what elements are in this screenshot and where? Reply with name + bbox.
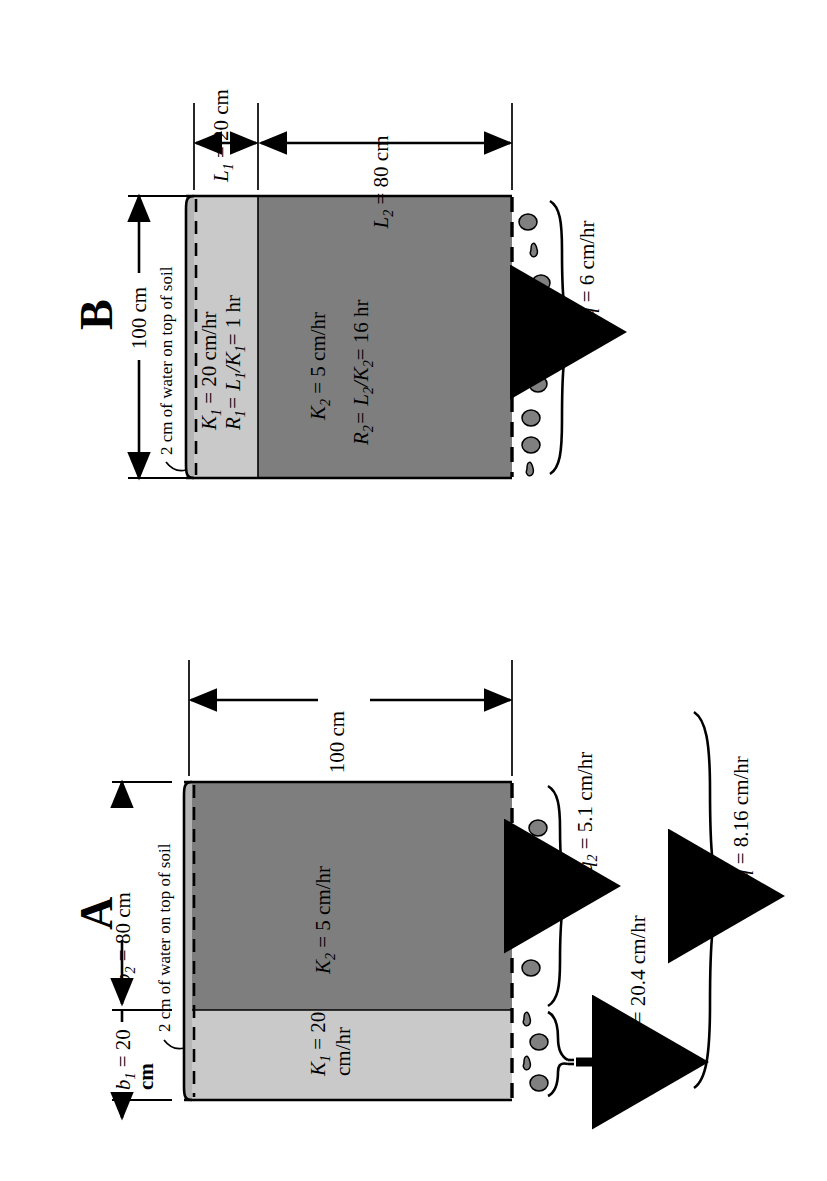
- figure-root: B 100 cm 2 cm of water on top of soil: [0, 0, 827, 1181]
- panel-b-flux-label: q = 6 cm/hr: [575, 220, 599, 318]
- panel-a-layer1-k: K1 = 20: [306, 1012, 333, 1077]
- water-droplet-icon: [522, 410, 540, 426]
- water-droplet-icon: [529, 376, 547, 392]
- panel-b-height-label: 100 cm: [127, 287, 151, 349]
- panel-b-label: B: [71, 299, 122, 330]
- panel-b-layer2-r: R2= L2/K2= 16 hr: [349, 299, 376, 446]
- water-droplet-icon: [519, 214, 537, 230]
- water-droplet-icon: [527, 310, 545, 326]
- panel-a-width-label: 100 cm: [325, 711, 349, 773]
- panel-b-layer2-fill: [258, 196, 512, 478]
- water-droplet-icon: [526, 462, 533, 475]
- panel-a-flux2-label: q2 = 5.1 cm/hr: [573, 752, 600, 872]
- water-droplet-icon: [523, 1056, 530, 1069]
- panel-b-layer1-r: R1= L1/K1= 1 hr: [221, 295, 248, 431]
- water-droplet-icon: [529, 820, 547, 836]
- panel-a-flux1-label: q1 = 20.4 cm/hr: [626, 915, 653, 1046]
- water-droplet-icon: [522, 437, 540, 453]
- water-droplet-icon: [524, 886, 542, 902]
- panel-a-ponding-label: 2 cm of water on top of soil: [155, 843, 174, 1032]
- water-droplet-icon: [522, 960, 540, 976]
- panel-a-flux-total-label: q = 8.16 cm/hr: [729, 756, 753, 880]
- panel-a-layer1-k-unit: cm/hr: [331, 1027, 355, 1076]
- water-droplet-icon: [526, 341, 533, 354]
- panel-b-ponding-label: 2 cm of water on top of soil: [157, 266, 176, 455]
- soil-flow-diagram: B 100 cm 2 cm of water on top of soil: [0, 0, 827, 1181]
- water-droplet-icon: [530, 1034, 548, 1050]
- water-droplet-icon: [528, 850, 535, 863]
- water-droplet-icon: [532, 275, 550, 291]
- panel-a-b1-unit: cm: [134, 1063, 158, 1090]
- water-droplet-icon: [530, 243, 537, 256]
- panel-a-layer2-fill: [192, 782, 512, 1010]
- water-droplet-icon: [530, 1075, 548, 1091]
- water-droplet-icon: [526, 922, 533, 935]
- water-droplet-icon: [523, 1012, 530, 1025]
